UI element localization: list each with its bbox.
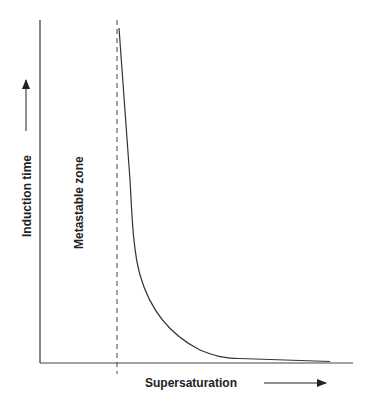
diagram-canvas: [0, 0, 374, 409]
metastable-zone-label: Metastable zone: [72, 156, 86, 249]
x-axis-label: Supersaturation: [145, 376, 237, 390]
y-axis-label: Induction time: [20, 155, 34, 237]
induction-time-curve: [119, 28, 330, 362]
